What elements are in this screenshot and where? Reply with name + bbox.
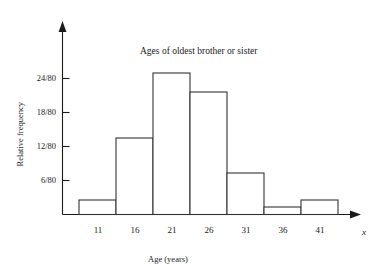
y-axis-title: Relative frequency [16, 86, 25, 182]
x-tick-label-26: 26 [197, 226, 221, 235]
y-axis-arrowhead [59, 21, 67, 32]
histogram-figure: Ages of oldest brother or sister Relativ… [0, 0, 378, 275]
x-tick-label-41: 41 [308, 226, 332, 235]
y-axis [59, 21, 70, 215]
y-tick-label-24-80: 24/80 [16, 74, 56, 83]
x-tick-label-11: 11 [86, 226, 110, 235]
y-tick-label-18-80: 18/80 [16, 108, 56, 117]
bar-bin-21 [153, 73, 190, 215]
chart-title: Ages of oldest brother or sister [140, 47, 257, 57]
bar-bin-41 [301, 200, 338, 215]
x-tick-label-16: 16 [123, 226, 147, 235]
bar-bin-11 [79, 200, 116, 215]
x-tick-label-36: 36 [271, 226, 295, 235]
x-axis-arrowhead [350, 211, 361, 219]
y-tick-label-12-80: 12/80 [16, 142, 56, 151]
x-tick-label-31: 31 [234, 226, 258, 235]
bar-bin-36 [264, 207, 301, 215]
y-tick-label-6-80: 6/80 [16, 176, 56, 185]
bar-bin-31 [227, 173, 264, 215]
x-axis-variable-symbol: x [362, 228, 366, 237]
x-axis-title: Age (years) [148, 255, 188, 264]
x-tick-label-21: 21 [160, 226, 184, 235]
bar-bin-26 [190, 92, 227, 215]
histogram-bars [79, 73, 338, 215]
bar-bin-16 [116, 138, 153, 215]
